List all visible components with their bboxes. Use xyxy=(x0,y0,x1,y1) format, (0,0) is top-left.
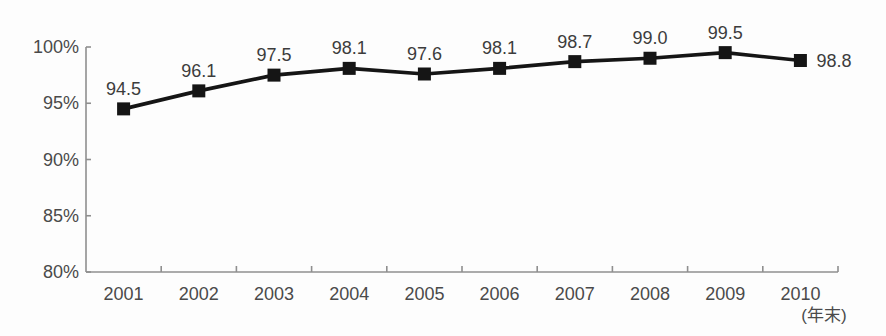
y-tick-label: 100% xyxy=(33,37,79,57)
x-tick-label: 2003 xyxy=(254,284,294,304)
x-tick-label: 2009 xyxy=(705,284,745,304)
data-point-label: 94.5 xyxy=(106,79,141,99)
data-point-label: 97.6 xyxy=(407,44,442,64)
data-point-marker xyxy=(644,52,657,65)
y-tick-label: 80% xyxy=(43,262,79,282)
data-point-label: 97.5 xyxy=(256,45,291,65)
data-point-marker xyxy=(568,55,581,68)
data-point-label: 98.1 xyxy=(332,38,367,58)
x-tick-label: 2007 xyxy=(555,284,595,304)
data-point-label: 99.0 xyxy=(632,28,667,48)
x-axis-unit-label: (年末) xyxy=(801,306,846,325)
data-line xyxy=(124,53,801,109)
data-point-marker xyxy=(418,68,431,81)
data-point-marker xyxy=(794,54,807,67)
x-tick-label: 2008 xyxy=(630,284,670,304)
x-tick-label: 2010 xyxy=(780,284,820,304)
data-point-label: 96.1 xyxy=(181,61,216,81)
data-point-marker xyxy=(493,62,506,75)
data-point-marker xyxy=(268,69,281,82)
data-point-marker xyxy=(117,102,130,115)
data-point-label: 98.8 xyxy=(816,51,851,71)
data-point-marker xyxy=(192,84,205,97)
line-chart-figure: 80%85%90%95%100%200120022003200420052006… xyxy=(0,0,886,336)
chart-canvas: 80%85%90%95%100%200120022003200420052006… xyxy=(0,0,886,336)
x-tick-label: 2005 xyxy=(404,284,444,304)
x-tick-label: 2002 xyxy=(179,284,219,304)
data-point-label: 99.5 xyxy=(708,23,743,43)
y-tick-label: 95% xyxy=(43,93,79,113)
x-tick-label: 2001 xyxy=(104,284,144,304)
y-tick-label: 85% xyxy=(43,206,79,226)
data-point-label: 98.1 xyxy=(482,38,517,58)
data-point-marker xyxy=(719,46,732,59)
x-tick-label: 2006 xyxy=(480,284,520,304)
x-tick-label: 2004 xyxy=(329,284,369,304)
data-point-marker xyxy=(343,62,356,75)
y-tick-label: 90% xyxy=(43,150,79,170)
data-point-label: 98.7 xyxy=(557,32,592,52)
